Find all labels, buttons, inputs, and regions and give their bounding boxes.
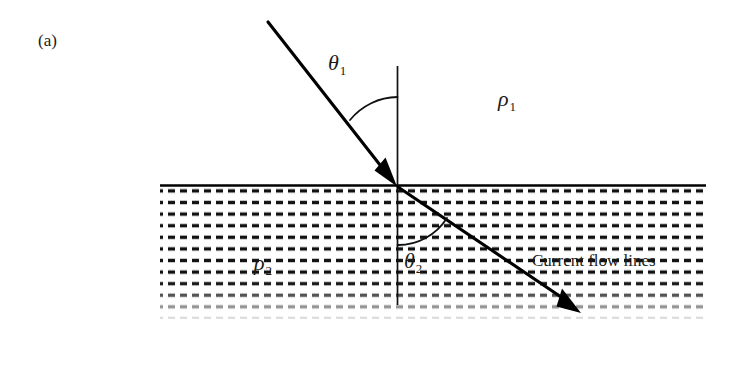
rho1-label: ρ1: [498, 88, 516, 113]
theta2-symbol: θ: [404, 248, 415, 273]
refraction-figure: (a) θ1 θ2 ρ1 ρ2 Current flow lines: [0, 0, 744, 365]
rho2-symbol: ρ: [254, 250, 265, 275]
rho2-subscript: 2: [265, 263, 273, 278]
theta2-label: θ2: [404, 250, 422, 275]
theta1-symbol: θ: [328, 50, 339, 75]
panel-label: (a): [38, 32, 57, 49]
diagram-canvas: [0, 0, 744, 365]
theta1-label: θ1: [328, 52, 346, 77]
current-flow-lines-label: Current flow lines: [532, 252, 656, 269]
theta1-subscript: 1: [339, 63, 347, 78]
rho1-subscript: 1: [509, 99, 517, 114]
incident-ray: [268, 22, 397, 187]
theta1-arc: [350, 97, 398, 120]
theta2-subscript: 2: [415, 261, 423, 276]
rho1-symbol: ρ: [498, 86, 509, 111]
rho2-label: ρ2: [254, 252, 272, 277]
